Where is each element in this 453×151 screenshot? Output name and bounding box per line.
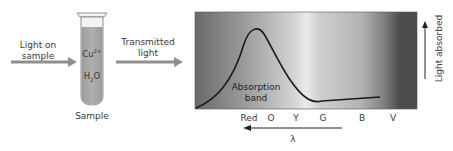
transmitted-label-line2: light	[116, 48, 180, 59]
solvent-label: H2O	[81, 71, 103, 86]
color-label-yellow: Y	[289, 113, 303, 124]
color-label-red: Red	[237, 113, 261, 124]
color-label-violet: V	[386, 113, 400, 124]
input-light-label: Light on sample	[10, 40, 66, 62]
wavelength-arrow	[243, 125, 342, 131]
sample-label: Sample	[72, 111, 112, 122]
band-label-line1: Absorption	[226, 82, 286, 93]
absorption-band-label: Absorption band	[226, 82, 286, 104]
input-light-label-line2: sample	[10, 51, 66, 62]
transmitted-light-label: Transmitted light	[116, 37, 180, 59]
band-label-line2: band	[226, 93, 286, 104]
color-label-orange: O	[264, 113, 278, 124]
input-light-label-line1: Light on	[10, 40, 66, 51]
transmitted-label-line1: Transmitted	[116, 37, 180, 48]
color-label-blue: B	[355, 113, 369, 124]
diagram-canvas	[0, 0, 453, 151]
light-absorbed-arrow	[422, 21, 428, 79]
ion-symbol: Cu	[82, 49, 93, 59]
solvent-o: O	[94, 71, 101, 81]
light-absorbed-label: Light absorbed	[434, 14, 445, 84]
ion-label: Cu2+	[81, 46, 103, 60]
ion-charge: 2+	[94, 48, 102, 54]
wavelength-label: λ	[286, 134, 300, 145]
color-label-green: G	[316, 113, 330, 124]
